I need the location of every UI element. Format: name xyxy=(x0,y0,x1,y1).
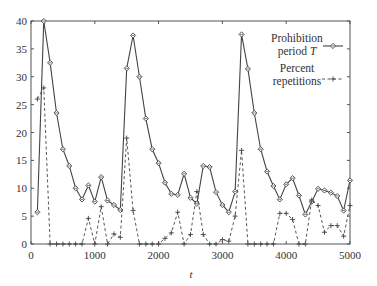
plus-marker xyxy=(156,242,161,247)
plus-marker xyxy=(80,242,85,247)
y-tick-label: 40 xyxy=(16,15,28,27)
plus-marker xyxy=(341,234,346,239)
legend-series-1-line2-text: period xyxy=(278,45,310,58)
plus-marker xyxy=(150,242,155,247)
legend-series-2-line1: Percent xyxy=(280,62,315,74)
plus-marker xyxy=(335,223,340,228)
legend-sample-solid-diamond xyxy=(323,43,343,48)
plus-marker xyxy=(99,204,104,209)
plus-marker xyxy=(226,239,231,244)
legend: Prohibition period T Percent repetitions xyxy=(271,32,344,88)
plus-marker xyxy=(35,97,40,102)
y-tick-label: 0 xyxy=(22,238,28,250)
plus-marker xyxy=(131,208,136,213)
plus-marker xyxy=(207,242,212,247)
x-tick-label: 1000 xyxy=(84,249,107,261)
plus-marker xyxy=(296,242,301,247)
plus-marker xyxy=(348,203,353,208)
plus-marker xyxy=(265,242,270,247)
plus-marker xyxy=(201,232,206,237)
plus-marker xyxy=(303,242,308,247)
x-tick-label: 2000 xyxy=(148,249,171,261)
plus-marker xyxy=(143,242,148,247)
legend-series-2-line2: repetitions xyxy=(273,75,322,88)
legend-series-1-line1: Prohibition xyxy=(271,32,323,44)
plus-marker xyxy=(73,242,78,247)
plus-marker xyxy=(322,230,327,235)
plus-marker xyxy=(118,235,123,240)
y-tick-label: 5 xyxy=(22,210,28,222)
plus-marker xyxy=(245,242,250,247)
plus-marker xyxy=(124,136,129,141)
series-percent-repetitions xyxy=(35,85,353,246)
plus-marker xyxy=(271,242,276,247)
y-tick-label: 10 xyxy=(16,182,28,194)
x-tick-label: 5000 xyxy=(339,249,362,261)
plus-marker xyxy=(239,148,244,153)
plus-marker xyxy=(214,242,219,247)
plus-marker xyxy=(92,242,97,247)
plus-marker xyxy=(105,242,110,247)
plus-marker xyxy=(252,242,257,247)
line-chart: 0510152025303540 010002000300040005000 t… xyxy=(0,0,377,286)
plus-marker xyxy=(60,242,65,247)
plus-marker xyxy=(111,231,116,236)
x-tick-label: 0 xyxy=(28,249,34,261)
x-axis-label: t xyxy=(189,268,193,280)
y-tick-label: 35 xyxy=(16,43,28,55)
y-tick-label: 25 xyxy=(16,99,28,111)
x-tick-label: 3000 xyxy=(211,249,234,261)
dashed-line xyxy=(37,88,350,244)
plus-marker xyxy=(182,242,187,247)
plus-marker xyxy=(316,203,321,208)
plus-marker xyxy=(284,211,289,216)
legend-series-1-line2: period T xyxy=(278,45,318,58)
plus-marker xyxy=(277,211,282,216)
plus-marker xyxy=(54,242,59,247)
plus-marker xyxy=(86,216,91,221)
y-tick-label: 20 xyxy=(16,127,28,139)
y-tick-label: 30 xyxy=(16,71,28,83)
plus-marker xyxy=(233,214,238,219)
x-axis-ticks: 010002000300040005000 xyxy=(28,21,361,261)
plus-marker xyxy=(48,242,53,247)
plus-marker xyxy=(331,77,336,82)
plus-marker xyxy=(137,242,142,247)
y-tick-label: 15 xyxy=(16,154,28,166)
legend-sample-dashed-plus xyxy=(322,77,344,82)
plus-marker xyxy=(258,242,263,247)
plus-marker xyxy=(188,232,193,237)
plus-marker xyxy=(175,210,180,215)
plus-marker xyxy=(67,242,72,247)
x-tick-label: 4000 xyxy=(275,249,298,261)
